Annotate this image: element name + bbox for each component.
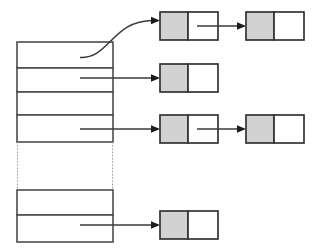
bucket-array-ellipsis-region bbox=[18, 142, 113, 190]
bucket-slot-2[interactable] bbox=[17, 92, 113, 115]
chain-5-node-0-data-cell bbox=[160, 211, 188, 239]
chain-0-node-0-data-cell bbox=[160, 12, 188, 40]
chain-5-node-0[interactable] bbox=[160, 211, 218, 239]
bucket-array bbox=[17, 42, 113, 242]
bucket-slot-1[interactable] bbox=[17, 68, 113, 92]
chain-3-link-0-to-1-arrowhead bbox=[237, 125, 246, 132]
bucket-slot-4[interactable] bbox=[17, 190, 113, 215]
chain-3-arrowhead bbox=[151, 125, 160, 132]
chain-0-arrowhead bbox=[151, 17, 160, 24]
bucket-array-upper-block bbox=[17, 42, 113, 142]
bucket-array-lower-block bbox=[17, 190, 113, 242]
hash-table-chaining-diagram bbox=[0, 0, 321, 251]
chain-3-node-1-next-cell bbox=[274, 115, 304, 143]
chain-3-node-1[interactable] bbox=[246, 115, 304, 143]
chain-1-node-0[interactable] bbox=[160, 64, 218, 92]
diagram-canvas bbox=[0, 0, 321, 251]
chain-3-node-1-data-cell bbox=[246, 115, 274, 143]
chain-5-node-0-next-cell bbox=[188, 211, 218, 239]
chain-0-node-1-next-cell bbox=[274, 12, 304, 40]
chain-0-link-0-to-1-arrowhead bbox=[237, 22, 246, 29]
chain-3-node-0-data-cell bbox=[160, 115, 188, 143]
bucket-slot-0[interactable] bbox=[17, 42, 113, 68]
chain-1-node-0-next-cell bbox=[188, 64, 218, 92]
bucket-slot-5[interactable] bbox=[17, 215, 113, 242]
chain-1-arrowhead bbox=[151, 74, 160, 81]
chain-0-node-1-data-cell bbox=[246, 12, 274, 40]
chain-1-node-0-data-cell bbox=[160, 64, 188, 92]
chain-5-arrowhead bbox=[151, 221, 160, 228]
chain-0-node-1[interactable] bbox=[246, 12, 304, 40]
